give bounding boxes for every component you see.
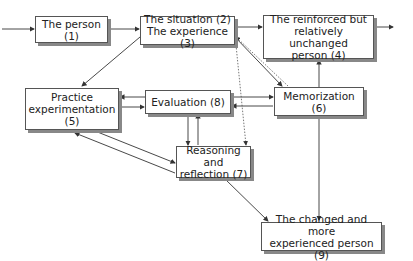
node-label: The person (1) [36, 18, 107, 42]
node-label: Memorization (6) [275, 90, 363, 114]
node-memorization: Memorization (6) [274, 87, 364, 116]
node-label: Reasoning and reflection (7) [177, 144, 250, 180]
node-label: The changed and more experienced person … [262, 213, 381, 261]
node-person: The person (1) [35, 16, 108, 43]
node-label: Evaluation (8) [151, 96, 225, 108]
node-label: The reinforced but relatively unchanged … [264, 13, 373, 61]
node-label: The situation (2) The experience (3) [141, 13, 234, 49]
node-changed-person: The changed and more experienced person … [261, 222, 382, 251]
node-practice-experimentation: Practice experimentation (5) [25, 88, 119, 130]
node-evaluation: Evaluation (8) [145, 90, 231, 114]
node-situation-experience: The situation (2) The experience (3) [140, 16, 235, 45]
node-reinforced-person: The reinforced but relatively unchanged … [263, 15, 374, 59]
node-label: Practice experimentation (5) [29, 91, 116, 127]
node-reasoning-reflection: Reasoning and reflection (7) [176, 146, 251, 178]
